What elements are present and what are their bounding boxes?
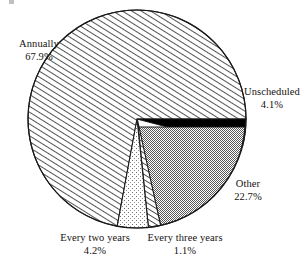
pie-label-every-two-years-name: Every two years	[52, 232, 138, 245]
pie-label-every-three-years-value: 1.1%	[139, 245, 231, 258]
pie-label-every-three-years-name: Every three years	[139, 232, 231, 245]
pie-label-unscheduled: Unscheduled 4.1%	[236, 86, 307, 111]
pie-label-every-three-years: Every three years 1.1%	[139, 232, 231, 257]
pie-chart-figure: Annually 67.9% Unscheduled 4.1% Other 22…	[0, 0, 307, 266]
pie-label-annually: Annually 67.9%	[2, 38, 76, 63]
pie-label-other-value: 22.7%	[222, 191, 274, 204]
pie-label-unscheduled-name: Unscheduled	[236, 86, 307, 99]
pie-label-unscheduled-value: 4.1%	[236, 99, 307, 112]
pie-label-every-two-years: Every two years 4.2%	[52, 232, 138, 257]
pie-label-other-name: Other	[222, 178, 274, 191]
pie-label-every-two-years-value: 4.2%	[52, 245, 138, 258]
pie-label-other: Other 22.7%	[222, 178, 274, 203]
pie-label-annually-name: Annually	[2, 38, 76, 51]
pie-label-annually-value: 67.9%	[2, 51, 76, 64]
